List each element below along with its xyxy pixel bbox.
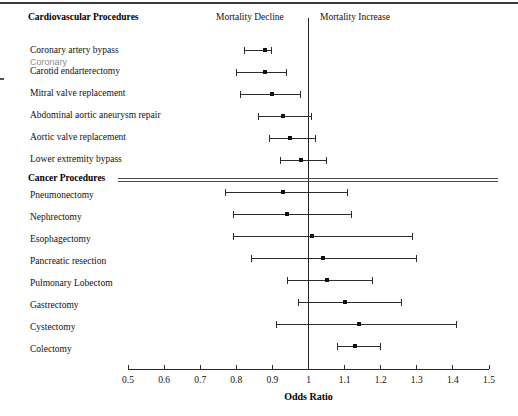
confidence-interval	[337, 342, 380, 351]
point-estimate-marker	[299, 158, 303, 162]
x-axis-tick	[200, 365, 201, 369]
point-estimate-marker	[285, 212, 289, 216]
x-axis-tick	[344, 365, 345, 369]
point-estimate-marker	[270, 92, 274, 96]
x-axis-tick	[416, 365, 417, 369]
x-axis-tick-label: 0.7	[180, 375, 220, 386]
ci-cap-right	[351, 211, 352, 218]
ci-cap-left	[337, 343, 338, 350]
ci-cap-left	[251, 255, 252, 262]
ci-cap-left	[258, 113, 259, 120]
ci-cap-right	[300, 91, 301, 98]
ci-cap-left	[225, 189, 226, 196]
x-axis-tick	[308, 365, 309, 369]
point-estimate-marker	[343, 300, 347, 304]
x-axis-tick-label: 0.5	[108, 375, 148, 386]
section-divider-rule	[118, 178, 498, 179]
ci-bar	[298, 302, 403, 303]
ci-cap-right	[372, 277, 373, 284]
point-estimate-marker	[353, 344, 357, 348]
x-axis-tick-label: 1.4	[433, 375, 473, 386]
x-axis-tick-label: 1	[289, 375, 329, 386]
ci-cap-left	[298, 299, 299, 306]
confidence-interval	[251, 254, 417, 263]
ci-cap-left	[244, 47, 245, 54]
confidence-interval	[244, 46, 273, 55]
confidence-interval	[225, 188, 348, 197]
ci-cap-left	[287, 277, 288, 284]
ci-cap-right	[347, 189, 348, 196]
point-estimate-marker	[263, 48, 267, 52]
ci-cap-left	[233, 211, 234, 218]
point-estimate-marker	[263, 70, 267, 74]
x-axis-tick	[164, 365, 165, 369]
confidence-interval	[269, 134, 316, 143]
point-estimate-marker	[325, 278, 329, 282]
x-axis-tick-label: 1.1	[325, 375, 365, 386]
point-estimate-marker	[281, 114, 285, 118]
ci-bar	[233, 214, 352, 215]
point-estimate-marker	[321, 256, 325, 260]
x-axis-tick-label: 0.9	[252, 375, 292, 386]
x-axis-tick-label: 0.8	[216, 375, 256, 386]
x-axis-tick-label: 1.3	[397, 375, 437, 386]
x-axis-tick	[272, 365, 273, 369]
x-axis-tick-label: 1.5	[469, 375, 509, 386]
ci-cap-left	[280, 157, 281, 164]
forest-plot-figure: Mortality Decline Mortality Increase Car…	[0, 0, 518, 416]
x-axis-title: Odds Ratio	[209, 391, 409, 403]
confidence-interval	[276, 320, 457, 329]
x-axis-tick	[236, 365, 237, 369]
plot-area: 0.50.60.70.80.911.11.21.31.41.5Odds Rati…	[0, 0, 518, 416]
ci-cap-right	[380, 343, 381, 350]
x-axis-tick-label: 1.2	[361, 375, 401, 386]
confidence-interval	[240, 90, 301, 99]
point-estimate-marker	[281, 190, 285, 194]
ci-bar	[244, 50, 273, 51]
ci-cap-right	[412, 233, 413, 240]
ci-bar	[337, 346, 380, 347]
ci-cap-right	[456, 321, 457, 328]
point-estimate-marker	[288, 136, 292, 140]
x-axis-tick	[489, 365, 490, 369]
x-axis-tick	[128, 365, 129, 369]
ci-cap-right	[326, 157, 327, 164]
x-axis-line	[128, 369, 489, 370]
ci-cap-right	[315, 135, 316, 142]
ci-bar	[225, 192, 348, 193]
section-divider-rule	[118, 181, 498, 182]
x-axis-tick-label: 0.6	[144, 375, 184, 386]
ci-cap-right	[311, 113, 312, 120]
confidence-interval	[233, 210, 352, 219]
ci-cap-left	[269, 135, 270, 142]
ci-cap-left	[240, 91, 241, 98]
ci-bar	[287, 280, 374, 281]
ci-cap-left	[233, 233, 234, 240]
ci-cap-right	[271, 47, 272, 54]
ci-cap-left	[276, 321, 277, 328]
confidence-interval	[258, 112, 312, 121]
point-estimate-marker	[310, 234, 314, 238]
x-axis-tick	[452, 365, 453, 369]
confidence-interval	[233, 232, 414, 241]
ci-bar	[233, 236, 414, 237]
ci-cap-right	[416, 255, 417, 262]
confidence-interval	[287, 276, 374, 285]
ci-cap-right	[286, 69, 287, 76]
point-estimate-marker	[357, 322, 361, 326]
ci-bar	[276, 324, 457, 325]
confidence-interval	[298, 298, 403, 307]
confidence-interval	[236, 68, 287, 77]
ci-bar	[236, 72, 287, 73]
x-axis-tick	[380, 365, 381, 369]
ci-bar	[251, 258, 417, 259]
ci-cap-right	[401, 299, 402, 306]
confidence-interval	[280, 156, 327, 165]
ci-cap-left	[236, 69, 237, 76]
